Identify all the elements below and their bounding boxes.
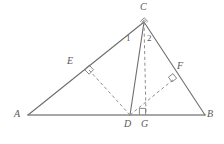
segment-CD bbox=[130, 22, 144, 115]
angle-label-1: 1 bbox=[126, 33, 131, 43]
vertex-label-C: C bbox=[140, 2, 147, 12]
vertex-label-B: B bbox=[207, 109, 213, 119]
vertex-label-A: A bbox=[14, 109, 20, 119]
segment-DE bbox=[89, 70, 130, 115]
segment-CB bbox=[144, 22, 205, 115]
vertex-label-F: F bbox=[177, 61, 183, 71]
vertex-label-G: G bbox=[141, 119, 148, 129]
vertex-label-D: D bbox=[124, 119, 131, 129]
geometry-figure: A B C D G E F 1 2 bbox=[0, 0, 224, 144]
geometry-canvas bbox=[0, 0, 224, 144]
right-angle-at-G bbox=[139, 108, 145, 114]
segment-DF bbox=[130, 79, 174, 115]
angle-label-2: 2 bbox=[147, 33, 152, 43]
vertex-label-E: E bbox=[67, 56, 73, 66]
segment-CG bbox=[144, 22, 146, 115]
